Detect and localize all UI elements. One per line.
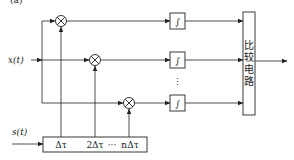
- integrator-2: ∫: [170, 52, 185, 68]
- comparator-char-1: 比: [244, 40, 254, 51]
- comparator-char-2: 较: [244, 51, 254, 63]
- input-s-label: s(t): [12, 127, 28, 137]
- integral-icon: ∫: [175, 99, 180, 109]
- comparator-char-3: 电: [244, 63, 254, 75]
- tap-ellipsis: ···: [108, 140, 117, 150]
- integral-icon: ∫: [175, 56, 180, 66]
- multiplier-2: [90, 55, 101, 66]
- comparator-block: 比 较 电 路: [243, 12, 255, 115]
- delay-line-block: Δτ 2Δτ ··· nΔτ: [43, 137, 147, 152]
- integral-icon: ∫: [175, 17, 180, 27]
- multiplier-3: [124, 98, 135, 109]
- input-x-label: x(t): [8, 55, 24, 65]
- tap-label-n: nΔτ: [121, 140, 138, 150]
- tap-label-1: Δτ: [55, 140, 66, 150]
- correlation-receiver-diagram: (a) x(t) ∫ ∫ ∫ ⋮: [0, 0, 294, 160]
- comparator-char-4: 路: [244, 75, 254, 87]
- figure-label-partial: (a): [10, 0, 22, 5]
- vertical-ellipsis: ⋮: [173, 77, 182, 87]
- tap-label-2: 2Δτ: [86, 140, 103, 150]
- integrator-3: ∫: [170, 95, 185, 111]
- multiplier-1: [56, 16, 67, 27]
- integrator-1: ∫: [170, 13, 185, 29]
